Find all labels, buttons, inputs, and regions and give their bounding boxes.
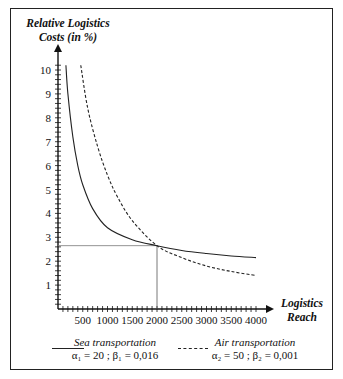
x-axis-arrow-icon <box>266 305 274 313</box>
x-tick-label: 4000 <box>245 314 268 326</box>
y-tick-label: 6 <box>46 160 52 172</box>
y-tick-label: 10 <box>40 64 52 76</box>
legend-air-name: Air transportation <box>185 336 325 349</box>
x-tick-label: 500 <box>75 314 92 326</box>
line-chart-plot: 5001000150020002500300035004000123456789… <box>0 0 343 379</box>
x-tick-label: 2000 <box>146 314 169 326</box>
y-axis-arrow-icon <box>54 44 62 52</box>
y-tick-label: 9 <box>46 88 52 100</box>
legend-sea-name: Sea transportation <box>55 336 175 349</box>
x-tick-label: 1500 <box>121 314 144 326</box>
sea-transportation-curve <box>66 65 256 257</box>
y-tick-label: 1 <box>46 279 52 291</box>
y-tick-label: 7 <box>46 136 52 148</box>
x-tick-label: 3000 <box>196 314 219 326</box>
x-tick-label: 3500 <box>220 314 243 326</box>
x-tick-label: 1000 <box>97 314 120 326</box>
y-tick-label: 4 <box>46 207 52 219</box>
legend-item-sea: Sea transportation α₁ = 20 ; β₁ = 0,016 <box>55 336 175 362</box>
legend-sea-params: α₁ = 20 ; β₁ = 0,016 <box>55 349 175 362</box>
y-tick-label: 8 <box>46 112 52 124</box>
x-tick-label: 2500 <box>171 314 194 326</box>
y-tick-label: 5 <box>46 184 52 196</box>
y-tick-label: 2 <box>46 255 52 267</box>
air-transportation-curve <box>81 65 256 275</box>
y-tick-label: 3 <box>46 231 52 243</box>
legend-air-params: α₂ = 50 ; β₂ = 0,001 <box>185 349 325 362</box>
legend-item-air: Air transportation α₂ = 50 ; β₂ = 0,001 <box>185 336 325 362</box>
